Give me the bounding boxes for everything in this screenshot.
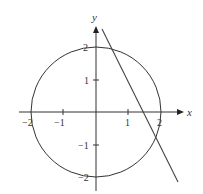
secant-line xyxy=(102,29,178,182)
x-tick-label: 1 xyxy=(125,117,130,128)
y-tick-label: −1 xyxy=(78,140,89,151)
coordinate-diagram: x y −2 −1 1 2 2 1 −1 −2 xyxy=(0,0,203,194)
x-tick-label: −2 xyxy=(22,117,33,128)
x-axis-label: x xyxy=(186,106,192,118)
y-tick-label: 1 xyxy=(84,75,89,86)
y-axis-arrow-icon xyxy=(93,26,99,33)
y-tick-label: −2 xyxy=(78,172,89,183)
x-axis-arrow-icon xyxy=(177,109,184,115)
x-tick-label: 2 xyxy=(157,117,162,128)
y-axis-label: y xyxy=(91,11,97,23)
y-tick-label: 2 xyxy=(83,42,88,53)
x-tick-label: −1 xyxy=(54,117,65,128)
